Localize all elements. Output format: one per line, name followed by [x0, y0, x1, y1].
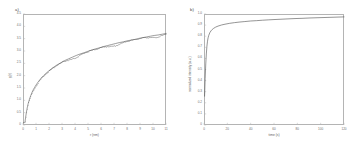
- panel-b-curve-layer: [178, 0, 356, 144]
- figure-two-panel: a) 0123456789101100.51.01.52.02.53.03.54…: [0, 0, 357, 144]
- panel-a-ytick-label: 2.5: [9, 62, 21, 65]
- panel-a-series-line: [25, 33, 166, 122]
- panel-b-xtick-label: 120: [341, 128, 346, 131]
- panel-b-xtick-label: 0: [203, 128, 205, 131]
- panel-a: a) 0123456789101100.51.01.52.02.53.03.54…: [0, 0, 178, 144]
- panel-b-ytick-label: 0.9: [190, 24, 202, 27]
- panel-a-xtick-label: 3: [61, 128, 63, 131]
- panel-b-ytick-label: 0.7: [190, 46, 202, 49]
- panel-b-xaxis-title: time (s): [269, 134, 280, 137]
- panel-a-xtick-label: 5: [87, 128, 89, 131]
- panel-a-ytick-label: 1.5: [9, 86, 21, 89]
- panel-b-xtick-label: 60: [272, 128, 275, 131]
- panel-a-xtick-label: 2: [48, 128, 50, 131]
- panel-a-ytick-label: 3.5: [9, 37, 21, 40]
- panel-a-xtick-label: 7: [113, 128, 115, 131]
- panel-b-ytick-label: 0: [190, 123, 202, 126]
- panel-a-ytick-label: 4.5: [9, 12, 21, 15]
- panel-a-ytick-label: 3.0: [9, 49, 21, 52]
- panel-a-ytick-label: 0: [9, 123, 21, 126]
- panel-b: b) 02040608010012000.10.20.30.40.50.60.7…: [178, 0, 356, 144]
- panel-a-xtick-label: 9: [139, 128, 141, 131]
- panel-b-xtick-label: 40: [249, 128, 252, 131]
- panel-b-series-line: [205, 17, 344, 96]
- panel-b-ytick-label: 1.0: [190, 12, 202, 15]
- panel-a-xtick-label: 10: [151, 128, 154, 131]
- panel-b-xtick-label: 80: [296, 128, 299, 131]
- panel-b-yaxis-title: normalized intensity (a.u.): [189, 57, 192, 92]
- panel-a-yaxis-title: g(r): [9, 73, 12, 78]
- panel-b-ytick-label: 0.8: [190, 35, 202, 38]
- panel-a-xtick-label: 0: [22, 128, 24, 131]
- panel-b-xtick-label: 20: [226, 128, 229, 131]
- panel-a-ytick-label: 0.5: [9, 111, 21, 114]
- panel-a-xtick-label: 11: [164, 128, 167, 131]
- panel-a-xtick-label: 4: [74, 128, 76, 131]
- panel-a-xtick-label: 8: [126, 128, 128, 131]
- panel-b-xtick-label: 100: [318, 128, 323, 131]
- panel-a-xtick-label: 1: [35, 128, 37, 131]
- panel-a-xtick-label: 6: [100, 128, 102, 131]
- panel-a-curve-layer: [0, 0, 178, 144]
- panel-a-ytick-label: 1.0: [9, 99, 21, 102]
- panel-a-ytick-label: 4.0: [9, 25, 21, 28]
- panel-b-ytick-label: 0.2: [190, 101, 202, 104]
- panel-a-xaxis-title: r (nm): [90, 134, 99, 137]
- panel-b-ytick-label: 0.1: [190, 112, 202, 115]
